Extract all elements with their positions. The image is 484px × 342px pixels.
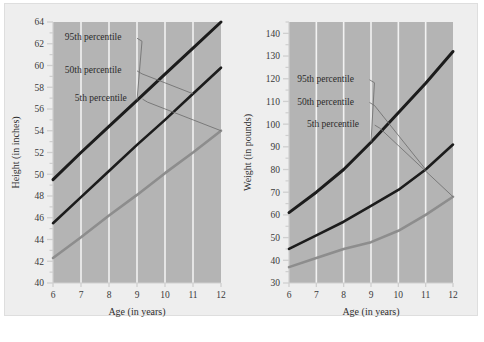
x-axis-title: Age (in years) bbox=[342, 306, 399, 317]
series-annotation-label: 5th percentile bbox=[307, 119, 359, 129]
x-tick-label: 11 bbox=[188, 290, 197, 300]
y-tick-label: 30 bbox=[271, 278, 281, 288]
y-tick-label: 52 bbox=[35, 148, 45, 158]
y-tick-label: 54 bbox=[35, 126, 45, 136]
y-tick-label: 90 bbox=[271, 142, 281, 152]
series-annotation-label: 50th percentile bbox=[297, 97, 354, 107]
weight-chart-svg: 304050607080901001101201301406789101112A… bbox=[237, 4, 474, 317]
y-axis-title: Weight (in pounds) bbox=[242, 114, 254, 191]
series-annotation-label: 95th percentile bbox=[297, 74, 354, 84]
y-tick-label: 42 bbox=[35, 257, 45, 267]
x-tick-label: 7 bbox=[314, 290, 319, 300]
y-tick-label: 64 bbox=[35, 17, 45, 27]
x-tick-label: 8 bbox=[341, 290, 346, 300]
x-tick-label: 6 bbox=[51, 290, 56, 300]
y-tick-label: 50 bbox=[271, 233, 281, 243]
y-tick-label: 100 bbox=[266, 120, 281, 130]
y-tick-label: 80 bbox=[271, 165, 281, 175]
y-axis-title: Height (in inches) bbox=[10, 116, 22, 188]
x-tick-label: 7 bbox=[79, 290, 84, 300]
y-tick-label: 120 bbox=[266, 74, 281, 84]
y-tick-label: 60 bbox=[35, 61, 45, 71]
series-annotation-label: 50th percentile bbox=[65, 65, 122, 75]
y-tick-label: 40 bbox=[35, 278, 45, 288]
x-tick-label: 9 bbox=[135, 290, 140, 300]
y-tick-label: 110 bbox=[266, 97, 280, 107]
x-tick-label: 9 bbox=[369, 290, 374, 300]
figure-canvas: 404244464850525456586062646789101112Age … bbox=[0, 0, 484, 342]
y-tick-label: 56 bbox=[35, 104, 45, 114]
chart-panel-weight: 304050607080901001101201301406789101112A… bbox=[237, 4, 474, 317]
y-tick-label: 62 bbox=[35, 39, 45, 49]
x-tick-label: 10 bbox=[160, 290, 170, 300]
y-tick-label: 58 bbox=[35, 83, 45, 93]
y-tick-label: 60 bbox=[271, 210, 281, 220]
height-chart-svg: 404244464850525456586062646789101112Age … bbox=[5, 4, 242, 317]
y-tick-label: 48 bbox=[35, 191, 45, 201]
x-tick-label: 10 bbox=[394, 290, 404, 300]
y-tick-label: 40 bbox=[271, 256, 281, 266]
y-tick-label: 44 bbox=[35, 235, 45, 245]
x-tick-label: 12 bbox=[448, 290, 458, 300]
series-annotation-label: 5th percentile bbox=[75, 93, 127, 103]
chart-panel-height: 404244464850525456586062646789101112Age … bbox=[5, 4, 242, 317]
y-tick-label: 46 bbox=[35, 213, 45, 223]
x-tick-label: 6 bbox=[287, 290, 292, 300]
y-tick-label: 140 bbox=[266, 29, 281, 39]
y-tick-label: 130 bbox=[266, 51, 281, 61]
x-tick-label: 12 bbox=[216, 290, 226, 300]
figure-frame: 404244464850525456586062646789101112Age … bbox=[4, 3, 478, 316]
y-tick-label: 70 bbox=[271, 188, 281, 198]
x-axis-title: Age (in years) bbox=[108, 306, 165, 317]
x-tick-label: 8 bbox=[107, 290, 112, 300]
x-tick-label: 11 bbox=[421, 290, 430, 300]
y-tick-label: 50 bbox=[35, 170, 45, 180]
series-annotation-label: 95th percentile bbox=[65, 32, 122, 42]
